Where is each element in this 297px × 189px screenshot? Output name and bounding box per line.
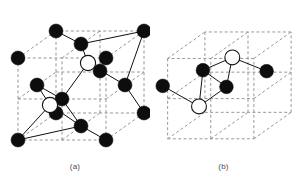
interstitial-lower: [42, 97, 57, 112]
interstitial-upper: [225, 50, 240, 65]
bond-6: [125, 31, 144, 85]
corner-front-top-right: [99, 51, 113, 65]
corner-back-top-left: [49, 24, 63, 38]
atom-upper-mid: [196, 63, 210, 77]
face-centre-left: [30, 78, 44, 92]
cell-edge-8: [254, 32, 291, 58]
crystal-structure-figure: (a) (b): [0, 0, 297, 189]
corner-back-bottom-right: [137, 106, 150, 120]
corner-front-bottom-left: [11, 133, 25, 147]
atoms-a: [11, 24, 150, 147]
corner-front-top-left: [11, 51, 25, 65]
interstitial-lower: [192, 99, 207, 114]
cell-edge-11: [168, 32, 205, 58]
cell-edge-15: [254, 72, 291, 98]
panel-b-caption: (b): [150, 162, 297, 171]
corner-front-bottom-right: [99, 133, 113, 147]
atom-lower-mid: [220, 80, 234, 94]
face-centre-bottom: [74, 119, 88, 133]
unit-cell-panel-a: [0, 0, 150, 160]
unit-cell-panel-b: [150, 0, 297, 160]
atom-left: [156, 79, 170, 93]
interstitial-upper: [80, 55, 95, 70]
face-centre-right: [118, 78, 132, 92]
panel-a-caption: (a): [0, 162, 150, 171]
corner-back-top-right: [137, 24, 150, 38]
bonds-b: [163, 57, 267, 106]
atom-right: [260, 64, 274, 78]
cell-edge-5: [254, 112, 291, 138]
face-centre-top: [74, 37, 88, 51]
cell-edge-12: [211, 112, 248, 138]
cell-edge-2: [168, 112, 205, 138]
atoms-b: [156, 50, 274, 114]
